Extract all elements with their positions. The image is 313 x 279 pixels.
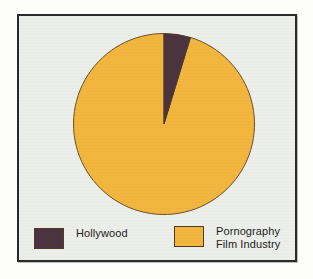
legend-swatch-hollywood xyxy=(34,228,64,249)
pie-chart-svg xyxy=(72,32,256,216)
legend-label-pornography: Pornography Film Industry xyxy=(216,225,280,250)
legend-item-pornography[interactable]: Pornography Film Industry xyxy=(174,225,280,250)
pie-chart xyxy=(72,32,256,216)
page-background: Hollywood Pornography Film Industry xyxy=(0,0,313,279)
figure-frame: Hollywood Pornography Film Industry xyxy=(17,14,297,262)
legend-label-hollywood: Hollywood xyxy=(76,227,128,240)
legend-swatch-pornography xyxy=(174,226,204,247)
legend-item-hollywood[interactable]: Hollywood xyxy=(34,227,128,249)
chart-legend: Hollywood Pornography Film Industry xyxy=(19,221,295,263)
